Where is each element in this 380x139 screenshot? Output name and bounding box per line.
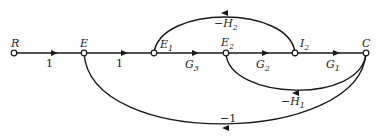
node-e	[81, 50, 87, 56]
gain-label-c-e: −1	[220, 112, 236, 125]
gain-label-c-e2: −H1	[281, 95, 305, 110]
arrow-icon	[51, 50, 58, 56]
arrow-icon	[262, 50, 269, 56]
arrow-icon	[192, 50, 199, 56]
node-e1	[151, 50, 157, 56]
gain-label-e2-i2: G2	[256, 58, 270, 73]
gain-label-r-e: 1	[46, 57, 53, 70]
gain-label-e1-e2: G3	[185, 58, 199, 73]
node-r	[11, 50, 17, 56]
arrow-icon	[121, 50, 128, 56]
node-label-c: C	[362, 37, 371, 50]
node-c	[363, 50, 369, 56]
node-label-e: E	[79, 37, 88, 50]
gain-label-i2-c: G1	[326, 58, 340, 73]
node-e2	[223, 50, 229, 56]
gain-label-e-e1: 1	[116, 57, 123, 70]
node-label-e2: E2	[220, 36, 234, 51]
arrow-icon	[222, 125, 229, 131]
node-i2	[292, 50, 298, 56]
node-label-i2: I2	[299, 37, 309, 52]
arrow-icon	[221, 10, 228, 16]
gain-label-i2-e1: −H2	[214, 17, 238, 32]
edge-c-e2-feedback	[226, 53, 366, 90]
node-label-r: R	[10, 37, 19, 50]
arrow-icon	[333, 50, 340, 56]
signal-flow-graph: R E E1 E2 I2 C 1 1 G3 G2 G1 −H2 −H1 −1	[0, 0, 380, 139]
node-label-e1: E1	[159, 38, 173, 53]
